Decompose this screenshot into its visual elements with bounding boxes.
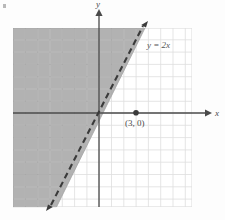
plotted-point-3-0 (133, 110, 139, 116)
point-label: (3, 0) (125, 118, 145, 128)
graph-figure: y = 2x (3, 0) x y (0, 0, 225, 220)
x-axis-arrow-icon (205, 109, 212, 116)
y-axis-arrow-icon (95, 9, 102, 16)
y-axis-label: y (95, 0, 100, 9)
coordinate-plane-plot: y = 2x (3, 0) x y (0, 0, 225, 220)
equation-label: y = 2x (146, 40, 170, 50)
x-axis-label: x (214, 108, 219, 118)
